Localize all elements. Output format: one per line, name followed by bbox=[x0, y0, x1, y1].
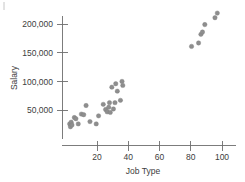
data-point bbox=[189, 44, 193, 48]
data-point bbox=[76, 122, 80, 126]
scatter-plot-figure: 20406080100 50,000100,000150,000200,000 … bbox=[0, 0, 245, 182]
data-points-group bbox=[67, 11, 219, 129]
data-point bbox=[110, 85, 114, 89]
y-tick-label: 150,000 bbox=[22, 48, 53, 58]
data-point bbox=[113, 100, 117, 104]
data-point bbox=[213, 15, 217, 19]
chart-canvas: 20406080100 50,000100,000150,000200,000 … bbox=[0, 0, 245, 182]
data-point bbox=[115, 89, 119, 93]
x-tick-label: 20 bbox=[92, 152, 102, 162]
data-point bbox=[82, 112, 86, 116]
data-point bbox=[107, 100, 111, 104]
x-tick-label: 60 bbox=[155, 152, 165, 162]
x-axis-title: Job Type bbox=[126, 166, 161, 176]
data-point bbox=[203, 22, 207, 26]
y-tick-label: 100,000 bbox=[22, 77, 53, 87]
data-point bbox=[88, 119, 92, 123]
y-tick-label: 50,000 bbox=[27, 105, 53, 115]
x-tick-label: 100 bbox=[215, 152, 229, 162]
data-point bbox=[114, 81, 118, 85]
data-point bbox=[84, 103, 88, 107]
x-tick-label: 40 bbox=[124, 152, 134, 162]
data-point bbox=[121, 83, 125, 87]
data-point bbox=[111, 107, 115, 111]
data-point bbox=[94, 122, 98, 126]
data-point bbox=[107, 105, 111, 109]
data-point bbox=[196, 41, 200, 45]
data-point bbox=[108, 110, 112, 114]
data-point bbox=[74, 117, 78, 121]
y-tick-labels: 50,000100,000150,000200,000 bbox=[22, 19, 53, 115]
data-point bbox=[200, 30, 204, 34]
data-point bbox=[96, 114, 100, 118]
data-point bbox=[215, 11, 219, 15]
data-point bbox=[70, 123, 74, 127]
y-tick-label: 200,000 bbox=[22, 19, 53, 29]
data-point bbox=[118, 98, 122, 102]
y-axis-title: Salary bbox=[9, 65, 19, 90]
axes-group bbox=[62, 16, 236, 146]
data-point bbox=[120, 79, 124, 83]
x-tick-labels: 20406080100 bbox=[92, 152, 229, 162]
data-point bbox=[101, 102, 105, 106]
x-tick-label: 80 bbox=[186, 152, 196, 162]
